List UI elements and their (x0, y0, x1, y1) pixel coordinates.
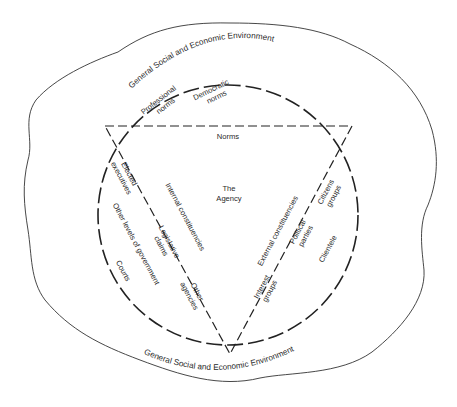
environment-label-bottom: General Social and Economic Environment (143, 344, 296, 372)
environment-label-top: General Social and Economic Environment (127, 31, 276, 90)
norms-edge-label: Norms (217, 132, 240, 141)
agency-title-line1: The (222, 184, 235, 193)
agency-environment-diagram: General Social and Economic Environment … (0, 0, 457, 407)
clientele-label: Clientele (317, 234, 339, 264)
courts-label: Courts (114, 259, 133, 283)
norms-circle (98, 85, 358, 345)
other-levels-label: Other levels of government (111, 201, 162, 287)
constituency-triangle (105, 126, 352, 354)
agency-title-line2: Agency (216, 194, 242, 203)
